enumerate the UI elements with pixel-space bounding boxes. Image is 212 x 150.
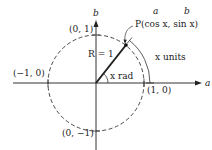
label-arc-length: x units [155, 52, 186, 62]
arc-end-tick-top [127, 38, 132, 44]
angle-arc [104, 74, 109, 83]
label-right-point: (1, 0) [147, 85, 171, 95]
label-left-point: (−1, 0) [13, 68, 45, 78]
a-axis-label: a [205, 78, 210, 88]
annotation-a: a [153, 6, 158, 16]
label-point-p: P(cos x, sin x) [135, 19, 198, 29]
a-axis-arrow-icon [195, 81, 202, 86]
label-radius: R = 1 [88, 49, 114, 59]
label-bottom-point: (0, −1) [62, 128, 94, 138]
label-angle: x rad [110, 71, 134, 81]
b-axis-arrow-icon [94, 20, 99, 27]
b-axis-label: b [93, 8, 99, 18]
annotation-b: b [184, 6, 190, 16]
label-top-point: (0, 1) [69, 24, 93, 34]
point-p-dot [124, 43, 128, 47]
unit-circle-diagram: a b (0, 1) (−1, 0) (1, 0) (0, −1) a b P(… [0, 0, 212, 150]
p-label-leader [125, 26, 133, 42]
